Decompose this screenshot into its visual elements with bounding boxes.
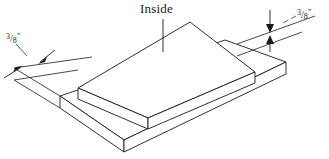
left-slab-edge-guide-lower: [14, 80, 60, 108]
right-dimension-leader: [283, 16, 296, 23]
left-extension-line-lower: [14, 70, 78, 80]
left-dimension-arrowhead-upper: [38, 57, 47, 64]
inside-label: Inside: [140, 2, 173, 15]
left-fraction: 3/8”: [6, 33, 20, 45]
diagram-canvas: Inside 3/8” 3/8”: [0, 0, 329, 159]
right-dimension-arrowhead-upper: [266, 24, 274, 33]
isometric-slab-drawing: [0, 0, 329, 159]
right-thickness-dimension-label: 3/8”: [297, 9, 311, 21]
left-dimension-arrow-upper-shaft: [40, 50, 55, 62]
left-dimension-arrow-lower-shaft: [4, 68, 20, 78]
left-inch-mark: ”: [17, 32, 21, 41]
left-slab-edge-guide-upper: [14, 68, 60, 96]
left-thickness-dimension-label: 3/8”: [6, 33, 20, 45]
right-fraction: 3/8”: [297, 9, 311, 21]
right-dimension-arrowhead-lower: [266, 35, 274, 44]
left-dimension-leader: [16, 44, 27, 56]
left-extension-line-upper: [14, 57, 92, 68]
right-inch-mark: ”: [308, 8, 312, 17]
